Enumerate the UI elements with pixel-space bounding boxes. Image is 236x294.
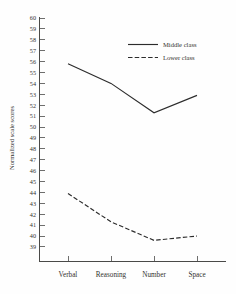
series-line-middle-class: [68, 64, 197, 113]
chart-figure: Normalized scale scores 60 59 58 57 56 5…: [0, 0, 236, 294]
y-tick-label: 42: [30, 211, 36, 218]
y-tick-label: 45: [30, 178, 36, 185]
y-tick-label: 44: [30, 189, 36, 196]
y-tick-label: 50: [30, 123, 36, 130]
legend-label-lower-class: Lower class: [163, 54, 195, 61]
series-line-lower-class: [68, 193, 197, 240]
y-tick-label: 49: [30, 134, 36, 141]
y-tick-label: 60: [30, 14, 36, 21]
x-axis-labels: Verbal Reasoning Number Space: [59, 271, 206, 279]
y-axis-title: Normalized scale scores: [8, 106, 15, 171]
y-tick-label: 46: [30, 167, 36, 174]
y-tick-label: 43: [30, 200, 36, 207]
chart-legend: Middle class Lower class: [128, 41, 197, 61]
x-axis-ticks: [68, 256, 197, 262]
y-tick-label: 59: [30, 25, 36, 32]
y-tick-label: 54: [30, 80, 36, 87]
y-tick-label: 51: [30, 112, 36, 119]
y-axis-ticks: 60 59 58 57 56 55 54 53 52 51 50 49 48: [30, 14, 45, 250]
legend-label-middle-class: Middle class: [163, 41, 197, 48]
y-tick-label: 39: [30, 243, 36, 250]
y-tick-label: 47: [30, 156, 36, 163]
y-tick-label: 52: [30, 102, 36, 109]
y-tick-label: 55: [30, 69, 36, 76]
y-tick-label: 53: [30, 91, 36, 98]
y-tick-label: 48: [30, 145, 36, 152]
y-tick-label: 41: [30, 221, 36, 228]
x-category-label: Number: [142, 271, 166, 279]
y-tick-label: 56: [30, 58, 36, 65]
x-category-label: Reasoning: [96, 271, 127, 279]
y-tick-label: 58: [30, 36, 36, 43]
y-tick-label: 57: [30, 47, 36, 54]
x-category-label: Verbal: [59, 271, 78, 279]
x-category-label: Space: [188, 271, 205, 279]
line-chart: Normalized scale scores 60 59 58 57 56 5…: [0, 0, 236, 294]
y-tick-label: 40: [30, 232, 36, 239]
